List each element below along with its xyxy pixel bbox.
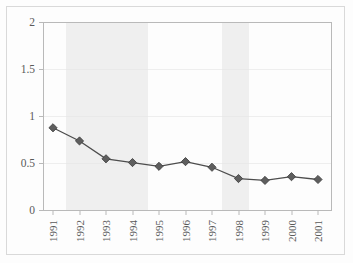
x-axis-tick-label: 1997 — [206, 220, 218, 243]
data-point-marker — [314, 175, 322, 183]
y-axis-tick-label: 1 — [29, 110, 35, 122]
x-axis-tick-label: 1998 — [233, 220, 245, 243]
y-axis-labels: 2 1.5 1 0.5 0 — [21, 16, 36, 216]
chart-svg: 2 1.5 1 0.5 0 199 — [0, 0, 353, 263]
chart-page: 2 1.5 1 0.5 0 199 — [0, 0, 353, 263]
x-axis-tick-label: 1999 — [259, 220, 271, 243]
x-axis-tick-label: 1995 — [153, 220, 165, 243]
data-point-marker — [49, 124, 57, 132]
x-axis-tick-label: 1993 — [100, 220, 112, 243]
x-axis-tick-label: 1992 — [74, 220, 86, 242]
data-point-marker — [208, 163, 216, 171]
x-axis-tick-label: 2000 — [286, 220, 298, 243]
y-axis-tick-label: 0 — [29, 204, 35, 216]
data-point-marker — [261, 176, 269, 184]
x-axis-tick-label: 2001 — [312, 220, 324, 242]
y-axis-tick-label: 0.5 — [21, 157, 36, 169]
data-point-marker — [181, 158, 189, 166]
line-chart: 2 1.5 1 0.5 0 199 — [0, 0, 353, 263]
x-axis-tick-label: 1991 — [47, 220, 59, 242]
data-point-marker — [287, 173, 295, 181]
x-axis-labels: 1991 1992 1993 1994 1995 1996 1997 1998 … — [47, 220, 324, 243]
y-axis-tick-label: 2 — [29, 16, 35, 28]
x-axis-tick-label: 1996 — [180, 220, 192, 243]
x-axis-ticks — [53, 211, 318, 215]
x-axis-tick-label: 1994 — [127, 220, 139, 243]
y-axis-ticks — [39, 23, 43, 211]
y-axis-tick-label: 1.5 — [21, 63, 36, 75]
